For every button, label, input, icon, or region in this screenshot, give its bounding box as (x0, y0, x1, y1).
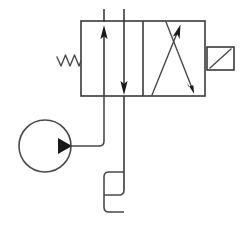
pressure-line-group (70, 96, 104, 146)
envelope-right-group (152, 22, 194, 95)
reservoir-mid-connector (104, 190, 124, 195)
hydraulic-valve-schematic: Hydraulic solenoid directional control v… (0, 0, 247, 235)
envelope-left-group (100, 21, 127, 96)
arrow-cross-up-head (173, 25, 181, 40)
pressure-supply-line (70, 96, 104, 146)
solenoid-diagonal-line (210, 49, 231, 68)
pump-group (19, 120, 72, 172)
port-lines-group (104, 9, 124, 22)
spring-return-group (57, 55, 81, 66)
valve-body-group (81, 21, 205, 96)
schematic-canvas: Hydraulic solenoid directional control v… (0, 0, 247, 235)
reservoir-group (104, 172, 124, 212)
solenoid-actuator-group (207, 47, 234, 70)
spring-zigzag-icon (57, 55, 81, 66)
reservoir-bracket (104, 172, 124, 212)
